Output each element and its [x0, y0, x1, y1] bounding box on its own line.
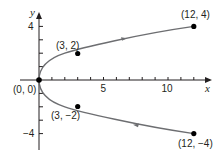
point-12-neg4 [191, 131, 196, 136]
x-tick-label-10: 10 [162, 83, 174, 94]
point-3-neg2 [75, 104, 80, 109]
point-3-2 [75, 51, 80, 56]
label-3-neg2: (3, −2) [51, 110, 80, 121]
y-axis-arrow-icon [36, 12, 42, 19]
x-tick-label-5: 5 [101, 83, 107, 94]
point-12-4 [191, 24, 196, 29]
point-origin [36, 77, 42, 83]
y-tick-label-4: 4 [28, 21, 34, 32]
y-tick-label-neg4: −4 [23, 128, 35, 139]
label-origin: (0, 0) [13, 84, 36, 95]
label-3-2: (3, 2) [56, 40, 79, 51]
label-12-neg4: (12, −4) [178, 138, 213, 149]
curve-upper-branch [39, 26, 194, 80]
label-12-4: (12, 4) [181, 9, 210, 20]
x-axis-label: x [204, 82, 210, 94]
parabola-chart: 5 10 4 −4 x y (0, 0) (3, 2) (12, 4) (3, … [0, 0, 222, 162]
y-axis-label: y [29, 6, 35, 18]
